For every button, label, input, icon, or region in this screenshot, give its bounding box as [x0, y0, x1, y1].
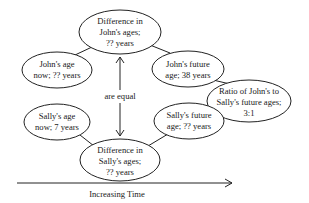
node-sally-future-age: Sally's future age; ?? years — [154, 103, 224, 139]
are-equal-label: are equal — [104, 91, 136, 101]
node-john-age-now: John's age now; ?? years — [22, 52, 92, 88]
node-diff-john-line1: Difference in — [97, 16, 143, 26]
node-diff-john-ages: Difference in John's ages; ?? years — [79, 10, 161, 54]
node-john-future-line2: age; 38 years — [165, 70, 211, 80]
node-diff-sally-line3: ?? years — [106, 167, 135, 177]
edge-sally-now-to-diff-sally — [80, 135, 94, 146]
edge-john-now-to-diff-john — [75, 47, 92, 55]
node-sally-now-line1: Sally's age — [39, 111, 76, 121]
node-ratio-line2: Sally's future ages; — [216, 97, 281, 107]
node-diff-sally-line2: Sally's ages; — [99, 156, 141, 166]
node-sally-future-line1: Sally's future — [166, 110, 211, 120]
node-john-future-age: John's future age; 38 years — [152, 51, 224, 87]
node-ratio-line3: 3:1 — [244, 108, 255, 118]
edge-diff-john-to-john-future — [150, 45, 170, 53]
node-diff-sally-ages: Difference in Sally's ages; ?? years — [80, 139, 160, 181]
node-ratio-line1: Ratio of John's to — [219, 86, 279, 96]
node-john-now-line2: now; ?? years — [33, 70, 81, 80]
node-diff-john-line3: ?? years — [106, 38, 135, 48]
edge-diff-sally-to-sally-future — [148, 134, 168, 146]
node-diff-john-line2: John's ages; — [100, 27, 141, 37]
node-sally-now-line2: now; 7 years — [35, 122, 80, 132]
time-axis-label: Increasing Time — [89, 189, 145, 199]
node-sally-age-now: Sally's age now; 7 years — [24, 104, 90, 140]
concept-map-diagram: are equal Difference in John's ages; ?? … — [0, 0, 309, 203]
node-sally-future-line2: age; ?? years — [167, 121, 212, 131]
node-john-now-line1: John's age — [39, 59, 74, 69]
node-diff-sally-line1: Difference in — [97, 145, 143, 155]
node-john-future-line1: John's future — [166, 59, 210, 69]
